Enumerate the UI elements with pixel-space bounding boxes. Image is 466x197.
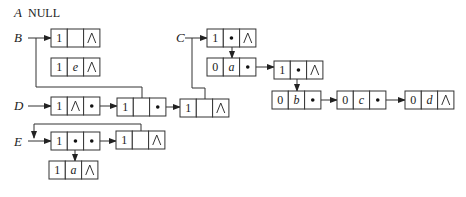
list-node-d3: 1 — [180, 99, 229, 117]
linked-list-diagram: 11e10a10b0c0d111111a ANULLBCDE — [0, 0, 466, 197]
pointer-dot-icon — [156, 105, 160, 109]
pointer-dot-icon — [246, 65, 250, 69]
head-label-d: D — [13, 98, 24, 113]
node-value: 1 — [212, 31, 218, 45]
list-node-c2: 0a — [207, 58, 256, 76]
list-node-e2: 1 — [116, 131, 165, 149]
list-nodes: 11e10a10b0c0d111111a — [49, 29, 454, 179]
node-value: c — [359, 93, 365, 107]
node-cell — [132, 131, 148, 149]
node-cell — [67, 29, 83, 47]
pointer-dot-icon — [376, 98, 380, 102]
diagram-canvas: 11e10a10b0c0d111111a ANULLBCDE — [0, 0, 466, 197]
null-value: NULL — [28, 6, 60, 20]
pointer-arrow-c-down — [192, 38, 205, 99]
node-value: 1 — [279, 63, 285, 77]
pointer-dot-icon — [297, 68, 301, 72]
list-node-d1: 1 — [51, 97, 100, 115]
pointer-dot-icon — [230, 36, 234, 40]
node-value: a — [228, 60, 234, 74]
head-label-a: A — [13, 5, 22, 20]
node-value: 0 — [277, 93, 283, 107]
pointer-dot-icon — [90, 139, 94, 143]
node-value: 1 — [185, 101, 191, 115]
list-node-c6: 0d — [405, 91, 454, 109]
node-value: 0 — [342, 93, 348, 107]
list-node-e3: 1a — [49, 161, 98, 179]
node-value: 1 — [56, 134, 62, 148]
list-node-b1: 1 — [51, 29, 100, 47]
head-label-c: C — [176, 30, 185, 45]
list-node-c3: 1 — [274, 61, 323, 79]
node-cell — [133, 98, 149, 116]
node-value: 1 — [54, 163, 60, 177]
list-node-d2: 1 — [117, 98, 166, 116]
node-value: 0 — [410, 93, 416, 107]
node-value: 0 — [212, 60, 218, 74]
list-node-b2: 1e — [51, 58, 100, 76]
pointer-dot-icon — [311, 98, 315, 102]
list-node-c5: 0c — [337, 91, 386, 109]
head-labels: ANULLBCDE — [13, 5, 185, 149]
node-value: 1 — [122, 100, 128, 114]
node-value: 1 — [56, 60, 62, 74]
pointer-dot-icon — [74, 139, 78, 143]
node-value: e — [73, 60, 79, 74]
node-value: 1 — [56, 31, 62, 45]
head-label-b: B — [14, 30, 22, 45]
node-value: a — [70, 163, 76, 177]
list-node-c4: 0b — [272, 91, 321, 109]
head-label-e: E — [13, 134, 22, 149]
list-node-e1: 1 — [51, 132, 100, 150]
node-value: d — [426, 93, 433, 107]
node-value: 1 — [121, 133, 127, 147]
pointer-dot-icon — [90, 104, 94, 108]
node-value: b — [293, 93, 299, 107]
node-cell — [196, 99, 212, 117]
list-node-c1: 1 — [207, 29, 256, 47]
node-value: 1 — [56, 99, 62, 113]
